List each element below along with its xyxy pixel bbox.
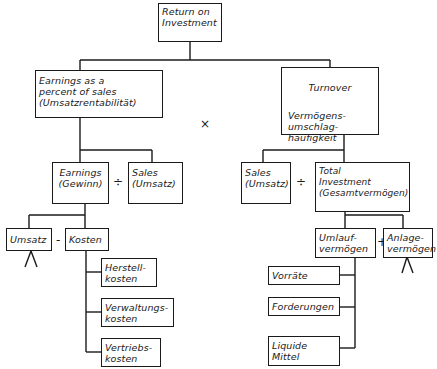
- node-total-investment: Total Investment (Gesamtvermögen): [315, 162, 410, 212]
- node-sales-umsatz-left: Sales (Umsatz): [128, 162, 183, 204]
- node-umsatz: Umsatz: [6, 228, 52, 251]
- node-sales-umsatz-right: Sales (Umsatz): [241, 162, 291, 204]
- roi-diagram: Return on Investment Earnings as a perce…: [0, 0, 437, 369]
- multiply-operator: ×: [200, 118, 210, 130]
- node-earnings-gewinn: Earnings (Gewinn): [52, 162, 109, 204]
- node-forderungen: Forderungen: [268, 297, 340, 316]
- node-vorraete: Vorräte: [268, 266, 340, 285]
- node-turnover: Turnover Vermögens- umschlag- häufigkeit: [281, 67, 379, 135]
- node-liquide-mittel: Liquide Mittel: [268, 336, 340, 366]
- node-vertriebskosten: Vertriebs- kosten: [101, 338, 161, 367]
- node-return-on-investment: Return on Investment: [158, 3, 222, 42]
- turnover-subtitle: Vermögens- umschlag- häufigkeit: [288, 110, 372, 143]
- minus-operator: -: [56, 234, 60, 246]
- node-earnings-percent-of-sales: Earnings as a percent of sales (Umsatzre…: [35, 70, 163, 118]
- node-herstellkosten: Herstell- kosten: [101, 258, 157, 287]
- node-anlagevermoegen: Anlage- vermögen: [383, 228, 433, 258]
- divide-operator-right: ÷: [296, 176, 306, 188]
- node-umlaufvermoegen: Umlauf- vermögen: [315, 228, 376, 258]
- node-verwaltungskosten: Verwaltungs- kosten: [101, 298, 174, 327]
- divide-operator-left: ÷: [113, 176, 123, 188]
- turnover-title: Turnover: [288, 82, 372, 93]
- node-kosten: Kosten: [65, 228, 109, 251]
